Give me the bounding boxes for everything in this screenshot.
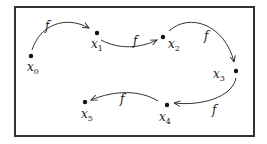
arrow-x3-to-x4 (174, 78, 236, 104)
point-label-x5: x5 (81, 107, 93, 123)
arrow-x1-to-x2 (101, 40, 157, 47)
point-label-x1: x1 (91, 37, 103, 53)
arrow-group: fffff (32, 19, 236, 117)
point-label-x2: x2 (168, 37, 180, 53)
arrow-x2-to-x3 (169, 22, 234, 62)
arrow-label: f (211, 103, 219, 117)
arrow-x4-to-x5 (91, 93, 158, 101)
point-x4 (165, 103, 169, 107)
point-x3 (234, 69, 238, 73)
point-label-x0: x0 (27, 60, 39, 76)
arrow-label: f (203, 29, 211, 43)
point-x5 (83, 100, 87, 104)
arrow-label: f (119, 92, 127, 106)
point-label-x3: x3 (213, 67, 225, 83)
arrow-x0-to-x1 (32, 22, 89, 50)
point-x2 (161, 35, 165, 39)
point-label-x4: x4 (159, 110, 171, 126)
point-x1 (95, 31, 99, 35)
point-x0 (29, 54, 33, 58)
mapping-diagram: fffff x0x1x2x3x4x5 (0, 0, 267, 144)
